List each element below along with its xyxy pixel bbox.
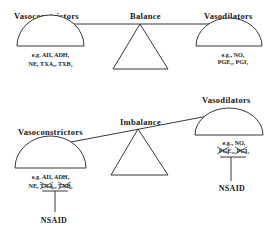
top-left-line1: e.g. AII, ADH, — [32, 51, 70, 58]
top-right-line1: e.g., NO, — [222, 51, 245, 58]
nsaid-label-left: NSAID — [41, 216, 67, 225]
top-left-pan: e.g. AII, ADH, NE, TXA₂, TXB₂ — [17, 15, 84, 67]
pan-bowl — [196, 18, 262, 46]
bottom-left-line1: e.g. AII, ADH, — [32, 173, 70, 180]
bottom-right-line1: e.g., NO, — [223, 139, 246, 146]
bottom-fulcrum — [111, 129, 168, 175]
bottom-left-title: Vasoconstrictors — [18, 127, 83, 137]
nsaid-label-right: NSAID — [219, 184, 245, 193]
top-left-line2: NE, TXA₂, TXB₂ — [28, 60, 72, 67]
bottom-state-label: Imbalance — [120, 117, 161, 127]
bottom-left-pan: e.g. AII, ADH, NE, TXA₂, TXB₂ NSAID — [15, 136, 86, 225]
bottom-right-pan: e.g., NO, PGE₂, PGI₂ NSAID — [195, 108, 263, 193]
top-state-label: Balance — [130, 11, 161, 21]
top-right-pan: e.g., NO, PGE₂, PGI₂ — [196, 18, 262, 65]
bottom-right-title: Vasodilators — [202, 95, 251, 105]
bottom-scale: Vasoconstrictors Imbalance Vasodilators … — [15, 95, 263, 225]
pan-bowl — [195, 108, 263, 135]
top-right-line2: PGE₂, PGI₂ — [218, 58, 249, 65]
top-scale: Vasoconstrictors Balance Vasodilators e.… — [14, 11, 262, 69]
balance-diagram: Vasoconstrictors Balance Vasodilators e.… — [0, 0, 276, 237]
top-fulcrum — [113, 24, 168, 69]
